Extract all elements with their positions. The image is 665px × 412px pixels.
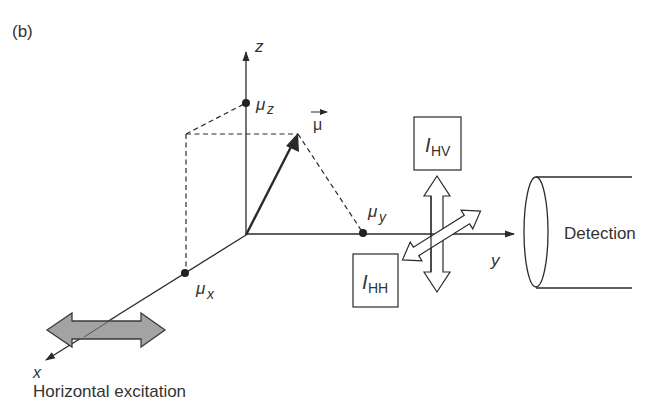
excitation-arrow-icon [47, 313, 165, 347]
excitation-label: Horizontal excitation [33, 382, 186, 401]
svg-text:x: x [206, 286, 215, 302]
mu-vector [246, 137, 296, 235]
x-axis-label: x [32, 364, 42, 381]
mu-vector-arrowhead-icon [286, 133, 299, 152]
axes [46, 52, 514, 360]
mu-vector-label: μ [311, 112, 327, 133]
mu-y-dot [359, 229, 367, 237]
fluorescence-anisotropy-diagram: (b) z y x μ z μ y μ x μ [0, 0, 665, 412]
dashed-line-z-to-corner [186, 103, 246, 134]
panel-label: (b) [12, 22, 33, 41]
svg-text:μ: μ [313, 116, 322, 133]
mu-x-dot [181, 269, 189, 277]
z-axis-label: z [254, 37, 264, 56]
mu-z-dot [242, 99, 250, 107]
svg-text:HV: HV [431, 143, 451, 159]
svg-text:z: z [266, 101, 274, 117]
svg-text:μ: μ [367, 202, 378, 221]
mu-y-label: μ y [367, 202, 387, 225]
dashed-line-to-y [298, 134, 363, 233]
svg-text:μ: μ [195, 279, 206, 298]
svg-text:y: y [378, 209, 387, 225]
i-hh-box: I HH [353, 254, 398, 307]
y-axis-label: y [490, 251, 501, 270]
i-hv-box: I HV [414, 117, 461, 170]
projection-lines [186, 103, 363, 274]
svg-text:μ: μ [255, 95, 266, 114]
mu-x-label: μ x [195, 279, 215, 302]
mu-z-label: μ z [255, 95, 274, 117]
detection-label: Detection [564, 224, 636, 243]
svg-text:HH: HH [368, 280, 388, 296]
